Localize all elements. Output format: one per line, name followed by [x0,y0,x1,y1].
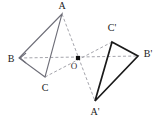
vertex-label-A-prime: A' [90,106,99,117]
vertex-label-C: C [42,82,49,93]
triangle-A-prime-B-prime-C-prime [95,42,138,101]
triangle-ABC [19,14,62,77]
vertex-label-B-prime: B' [144,48,153,59]
vertex-label-B: B [8,53,15,64]
vertex-label-A: A [58,0,66,11]
geometry-figure: O ABCA'B'C' [0,0,159,119]
vertex-label-C-prime: C' [108,22,117,33]
center-point-O-marker [76,56,80,60]
center-point-O-label: O [71,61,78,71]
geometry-canvas: O ABCA'B'C' [0,0,159,119]
